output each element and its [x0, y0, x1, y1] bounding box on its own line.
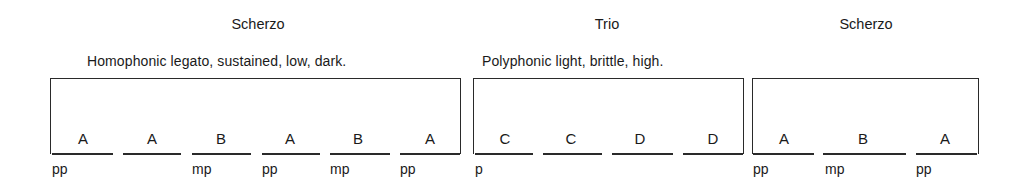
- part-segment: [543, 153, 602, 155]
- dynamic-marking: mp: [192, 161, 211, 177]
- dynamic-marking: pp: [262, 161, 278, 177]
- dynamic-marking: pp: [916, 161, 932, 177]
- part-segment: [823, 153, 906, 155]
- section-title: Scherzo: [231, 16, 284, 32]
- part-letter: A: [78, 130, 88, 147]
- part-letter: B: [353, 130, 363, 147]
- section-box: [473, 78, 744, 154]
- part-segment: [262, 153, 320, 155]
- section-title: Scherzo: [839, 16, 892, 32]
- part-letter: B: [216, 130, 226, 147]
- section-title: Trio: [595, 16, 619, 32]
- part-letter: A: [940, 130, 950, 147]
- part-letter: A: [425, 130, 435, 147]
- part-segment: [612, 153, 673, 155]
- dynamic-marking: pp: [52, 161, 68, 177]
- dynamic-marking: mp: [330, 161, 349, 177]
- section-box: [50, 78, 461, 154]
- part-segment: [683, 153, 743, 155]
- part-letter: A: [147, 130, 157, 147]
- section-description: Homophonic legato, sustained, low, dark.: [87, 53, 346, 69]
- part-segment: [475, 153, 533, 155]
- dynamic-marking: pp: [753, 161, 769, 177]
- dynamic-marking: p: [475, 161, 483, 177]
- dynamic-marking: mp: [825, 161, 844, 177]
- part-letter: B: [858, 130, 868, 147]
- part-letter: D: [635, 130, 646, 147]
- part-letter: C: [566, 130, 577, 147]
- section-description: Polyphonic light, brittle, high.: [482, 53, 663, 69]
- part-letter: D: [708, 130, 719, 147]
- part-segment: [192, 153, 251, 155]
- part-letter: C: [500, 130, 511, 147]
- part-segment: [916, 153, 977, 155]
- part-segment: [753, 153, 814, 155]
- dynamic-marking: pp: [400, 161, 416, 177]
- part-segment: [123, 153, 181, 155]
- part-letter: A: [779, 130, 789, 147]
- part-segment: [400, 153, 460, 155]
- part-segment: [330, 153, 390, 155]
- part-segment: [52, 153, 113, 155]
- part-letter: A: [285, 130, 295, 147]
